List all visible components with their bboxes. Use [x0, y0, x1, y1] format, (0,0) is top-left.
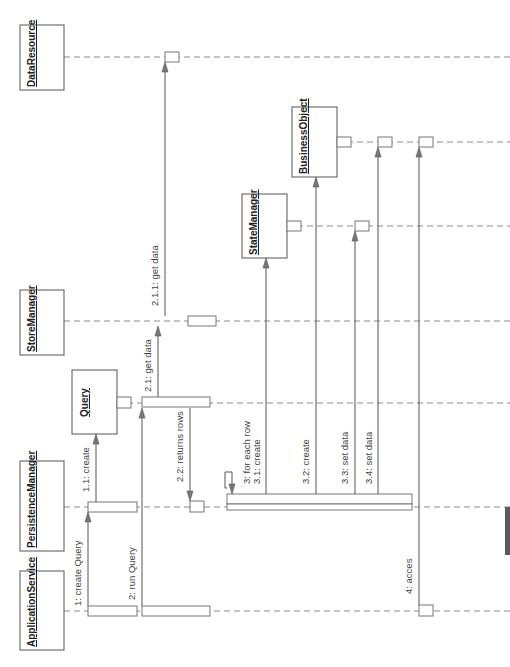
activation-business-object-creation: [337, 137, 351, 147]
message-create-state-manager: 3.1: create: [251, 258, 269, 494]
activation-application-service-3: [419, 605, 433, 616]
message-get-data-resource: 2.1.1: get data: [149, 62, 168, 316]
arrowhead-icon: [313, 177, 319, 187]
object-persistence-manager: PersistenceManager: [20, 451, 64, 551]
message-get-data: 2.1: get data: [142, 326, 161, 397]
message-label: 2: run Query: [126, 547, 137, 600]
activation-persistence-manager-2: [190, 501, 204, 512]
activation-state-manager-1: [355, 221, 369, 231]
arrowhead-icon: [139, 408, 145, 418]
arrowhead-icon: [187, 491, 193, 501]
activation-application-service-2: [142, 606, 210, 616]
activation-persistence-manager-4: [227, 504, 412, 510]
activation-query-1: [142, 397, 210, 407]
message-create-query: 1: create Query: [72, 512, 91, 606]
message-label: 3.2: create: [300, 439, 311, 484]
arrowhead-icon: [375, 147, 381, 157]
object-label: StoreManager: [26, 285, 37, 352]
message-create-query-object: 1.1: create: [80, 434, 99, 502]
object-data-resource: DataResource: [20, 19, 64, 90]
page-edge-tab: [505, 507, 510, 555]
message-label: 1.1: create: [80, 447, 91, 492]
object-application-service: ApplicationService: [20, 557, 64, 650]
activation-state-manager-creation: [287, 221, 301, 231]
arrowhead-icon: [162, 62, 168, 72]
message-label: 2.1: get data: [142, 338, 153, 392]
arrowhead-icon: [263, 258, 269, 268]
sequence-diagram: DataResource StoreManager Query Persiste…: [0, 0, 510, 667]
arrowhead-icon: [85, 512, 91, 522]
activation-business-object-1: [378, 137, 392, 147]
message-label: 2.1.1: get data: [149, 245, 160, 306]
activation-data-resource: [165, 52, 179, 62]
activation-store-manager: [188, 316, 216, 326]
object-business-object: BusinessObject: [292, 98, 337, 177]
activation-application-service-1: [88, 606, 137, 616]
arrowhead-icon: [352, 231, 358, 241]
arrowhead-icon: [229, 484, 235, 494]
object-store-manager: StoreManager: [20, 285, 64, 355]
message-label: 3.1: create: [251, 439, 262, 484]
arrowhead-icon: [416, 147, 422, 157]
message-returns-rows: 2.2: returns rows: [174, 408, 193, 501]
activation-business-object-2: [419, 137, 433, 147]
arrowhead-icon: [155, 326, 161, 336]
object-label: Query: [79, 388, 90, 417]
message-for-each-row: 3: for each row: [225, 421, 252, 494]
message-create-business-object: 3.2: create: [300, 177, 319, 494]
message-access-business-object: 4: acces: [403, 147, 422, 605]
message-label: 4: acces: [403, 558, 414, 594]
object-state-manager: StateManager: [242, 189, 287, 258]
object-label: StateManager: [248, 189, 259, 255]
object-label: ApplicationService: [26, 557, 37, 647]
message-label: 3.3: set data: [339, 431, 350, 484]
object-query: Query: [72, 370, 117, 434]
activation-persistence-manager-3: [227, 494, 412, 504]
message-label: 1: create Query: [72, 540, 83, 606]
arrowhead-icon: [93, 434, 99, 444]
object-label: BusinessObject: [298, 98, 309, 174]
object-label: PersistenceManager: [26, 451, 37, 548]
message-set-data-state-manager: 3.3: set data: [339, 231, 358, 494]
message-label: 2.2: returns rows: [174, 411, 185, 482]
object-label: DataResource: [26, 19, 37, 87]
activation-persistence-manager-1: [88, 502, 137, 512]
message-label: 3.4: set data: [363, 431, 374, 484]
activation-query-creation: [117, 397, 131, 408]
